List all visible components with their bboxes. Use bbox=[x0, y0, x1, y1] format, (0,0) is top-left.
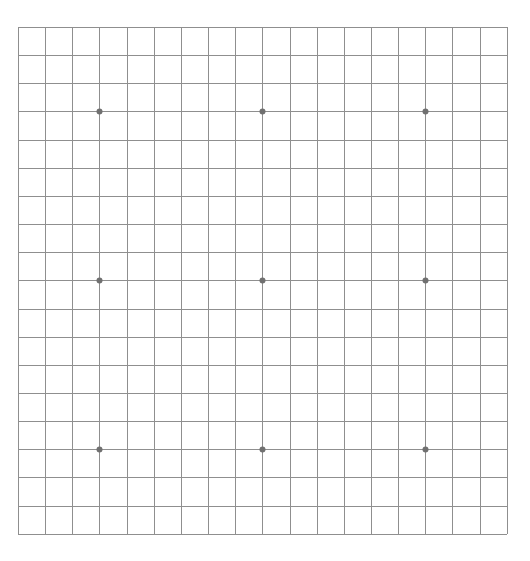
board-intersection[interactable] bbox=[4, 154, 31, 182]
board-intersection[interactable] bbox=[412, 407, 439, 435]
board-intersection[interactable] bbox=[493, 294, 520, 322]
board-intersection[interactable] bbox=[385, 238, 412, 266]
board-intersection[interactable] bbox=[412, 41, 439, 69]
board-intersection[interactable] bbox=[303, 126, 330, 154]
board-intersection[interactable] bbox=[493, 126, 520, 154]
board-intersection[interactable] bbox=[385, 351, 412, 379]
board-intersection[interactable] bbox=[412, 266, 439, 294]
board-intersection[interactable] bbox=[357, 351, 384, 379]
board-intersection[interactable] bbox=[385, 210, 412, 238]
board-intersection[interactable] bbox=[4, 97, 31, 125]
board-intersection[interactable] bbox=[86, 294, 113, 322]
board-intersection[interactable] bbox=[303, 323, 330, 351]
board-intersection[interactable] bbox=[86, 238, 113, 266]
board-intersection[interactable] bbox=[493, 210, 520, 238]
board-intersection[interactable] bbox=[466, 294, 493, 322]
board-intersection[interactable] bbox=[330, 210, 357, 238]
board-intersection[interactable] bbox=[276, 323, 303, 351]
board-intersection[interactable] bbox=[303, 154, 330, 182]
board-intersection[interactable] bbox=[412, 294, 439, 322]
board-intersection[interactable] bbox=[466, 97, 493, 125]
board-intersection[interactable] bbox=[276, 266, 303, 294]
board-intersection[interactable] bbox=[59, 13, 86, 41]
board-intersection[interactable] bbox=[330, 182, 357, 210]
board-intersection[interactable] bbox=[412, 210, 439, 238]
board-intersection[interactable] bbox=[140, 69, 167, 97]
board-intersection[interactable] bbox=[276, 238, 303, 266]
board-intersection[interactable] bbox=[59, 463, 86, 491]
board-intersection[interactable] bbox=[303, 41, 330, 69]
board-intersection[interactable] bbox=[167, 97, 194, 125]
board-intersection[interactable] bbox=[493, 41, 520, 69]
board-intersection[interactable] bbox=[357, 266, 384, 294]
board-intersection[interactable] bbox=[357, 435, 384, 463]
board-intersection[interactable] bbox=[140, 351, 167, 379]
board-intersection[interactable] bbox=[439, 69, 466, 97]
board-intersection[interactable] bbox=[113, 351, 140, 379]
board-intersection[interactable] bbox=[330, 41, 357, 69]
board-intersection[interactable] bbox=[249, 520, 276, 548]
board-intersection[interactable] bbox=[493, 13, 520, 41]
board-intersection[interactable] bbox=[357, 154, 384, 182]
board-intersection[interactable] bbox=[439, 126, 466, 154]
board-intersection[interactable] bbox=[276, 379, 303, 407]
board-intersection[interactable] bbox=[167, 238, 194, 266]
board-intersection[interactable] bbox=[303, 266, 330, 294]
board-intersection[interactable] bbox=[113, 41, 140, 69]
board-intersection[interactable] bbox=[330, 351, 357, 379]
board-intersection[interactable] bbox=[59, 407, 86, 435]
board-intersection[interactable] bbox=[194, 379, 221, 407]
board-intersection[interactable] bbox=[412, 435, 439, 463]
board-intersection[interactable] bbox=[32, 294, 59, 322]
board-intersection[interactable] bbox=[466, 126, 493, 154]
board-intersection[interactable] bbox=[466, 463, 493, 491]
board-intersection[interactable] bbox=[303, 69, 330, 97]
board-intersection[interactable] bbox=[330, 491, 357, 519]
board-intersection[interactable] bbox=[140, 238, 167, 266]
board-intersection[interactable] bbox=[59, 294, 86, 322]
board-intersection[interactable] bbox=[194, 238, 221, 266]
board-intersection[interactable] bbox=[86, 210, 113, 238]
board-intersection[interactable] bbox=[32, 13, 59, 41]
board-intersection[interactable] bbox=[249, 13, 276, 41]
board-intersection[interactable] bbox=[59, 520, 86, 548]
board-intersection[interactable] bbox=[4, 294, 31, 322]
board-intersection[interactable] bbox=[32, 41, 59, 69]
board-intersection[interactable] bbox=[385, 294, 412, 322]
board-intersection[interactable] bbox=[113, 323, 140, 351]
board-intersection[interactable] bbox=[32, 154, 59, 182]
board-intersection[interactable] bbox=[32, 69, 59, 97]
board-intersection[interactable] bbox=[385, 41, 412, 69]
board-intersection[interactable] bbox=[86, 379, 113, 407]
board-intersection[interactable] bbox=[222, 210, 249, 238]
board-intersection[interactable] bbox=[86, 351, 113, 379]
board-intersection[interactable] bbox=[222, 351, 249, 379]
board-intersection[interactable] bbox=[113, 13, 140, 41]
board-intersection[interactable] bbox=[140, 407, 167, 435]
board-intersection[interactable] bbox=[357, 69, 384, 97]
board-intersection[interactable] bbox=[466, 379, 493, 407]
board-intersection[interactable] bbox=[32, 126, 59, 154]
board-intersection[interactable] bbox=[466, 491, 493, 519]
board-intersection[interactable] bbox=[412, 182, 439, 210]
board-intersection[interactable] bbox=[32, 463, 59, 491]
board-intersection[interactable] bbox=[466, 435, 493, 463]
board-intersection[interactable] bbox=[249, 266, 276, 294]
board-intersection[interactable] bbox=[222, 435, 249, 463]
board-intersection[interactable] bbox=[303, 13, 330, 41]
board-intersection[interactable] bbox=[330, 435, 357, 463]
board-intersection[interactable] bbox=[385, 463, 412, 491]
board-intersection[interactable] bbox=[249, 69, 276, 97]
board-intersection[interactable] bbox=[385, 323, 412, 351]
board-intersection[interactable] bbox=[303, 407, 330, 435]
board-intersection[interactable] bbox=[222, 126, 249, 154]
board-intersection[interactable] bbox=[303, 238, 330, 266]
board-intersection[interactable] bbox=[167, 323, 194, 351]
board-intersection[interactable] bbox=[59, 97, 86, 125]
board-intersection[interactable] bbox=[167, 69, 194, 97]
board-intersection[interactable] bbox=[439, 379, 466, 407]
board-intersection[interactable] bbox=[167, 182, 194, 210]
board-intersection[interactable] bbox=[303, 491, 330, 519]
board-intersection[interactable] bbox=[385, 154, 412, 182]
board-intersection[interactable] bbox=[194, 266, 221, 294]
